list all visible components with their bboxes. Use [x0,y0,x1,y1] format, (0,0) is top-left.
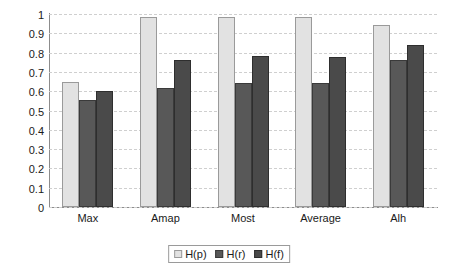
category-label-Most: Most [231,212,255,225]
legend-item-Hp[interactable]: H(p) [174,248,206,260]
bar-chart: 00.10.20.30.40.50.60.70.80.91 MaxAmapMos… [0,0,458,276]
y-axis-tick-label: 1 [38,10,44,21]
legend-swatch-icon [174,250,182,258]
y-axis-tick-label: 0.2 [29,164,44,175]
y-axis-tick-label: 0.5 [29,106,44,117]
bar-group [62,14,113,207]
bar-Hp-Average[interactable] [295,17,312,207]
legend-swatch-icon [216,250,224,258]
bar-group [218,14,269,207]
y-axis-tick-label: 0.4 [29,125,44,136]
legend-label: H(r) [227,248,246,260]
legend-item-Hr[interactable]: H(r) [216,248,246,260]
bar-Hp-Amap[interactable] [140,17,157,207]
y-axis-tick-label: 0.7 [29,67,44,78]
legend-swatch-icon [255,250,263,258]
bar-Hf-Alh[interactable] [407,45,424,207]
y-axis-tick-label: 0 [38,203,44,214]
y-axis-tick-label: 0.1 [29,183,44,194]
bar-Hr-Average[interactable] [312,83,329,207]
bar-group [140,14,191,207]
bar-Hp-Most[interactable] [218,17,235,207]
bar-group [373,14,424,207]
bar-Hr-Amap[interactable] [157,88,174,207]
y-axis-tick-label: 0.3 [29,145,44,156]
category-label-Amap: Amap [151,212,180,225]
chart-legend: H(p)H(r)H(f) [168,245,290,263]
bar-Hf-Most[interactable] [252,56,269,207]
bar-Hf-Average[interactable] [329,57,346,207]
category-label-Alh: Alh [390,212,406,225]
y-axis-tick-label: 0.8 [29,48,44,59]
bar-group [295,14,346,207]
legend-label: H(f) [266,248,284,260]
bar-Hr-Max[interactable] [79,100,96,207]
y-axis-tick-label: 0.9 [29,29,44,40]
bar-Hf-Max[interactable] [96,91,113,207]
bar-Hr-Most[interactable] [235,83,252,207]
legend-item-Hf[interactable]: H(f) [255,248,284,260]
gridline: 0 [49,207,437,208]
bar-Hp-Max[interactable] [62,82,79,207]
legend-label: H(p) [185,248,206,260]
bar-Hp-Alh[interactable] [373,25,390,207]
bar-Hr-Alh[interactable] [390,60,407,207]
category-label-Average: Average [300,212,341,225]
category-label-Max: Max [77,212,98,225]
bar-Hf-Amap[interactable] [174,60,191,207]
y-axis-tick-label: 0.6 [29,87,44,98]
plot-area: 00.10.20.30.40.50.60.70.80.91 [49,14,437,207]
